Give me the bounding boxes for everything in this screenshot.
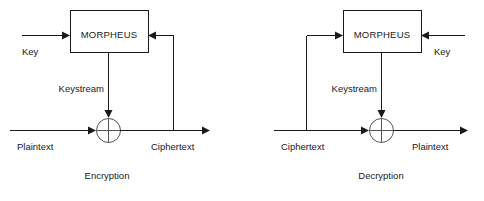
arrow-head-icon (148, 32, 156, 40)
encryption-feedback-wire (148, 32, 174, 131)
arrow-head-icon (335, 32, 343, 40)
decryption-feedback-wire (307, 32, 344, 131)
arrow-head-icon (105, 110, 113, 118)
encryption-keystream-label: Keystream (59, 83, 104, 94)
arrow-head-icon (378, 110, 386, 118)
encryption-cipher-block-label: MORPHEUS (81, 29, 138, 40)
decryption-diagram: MORPHEUS (274, 11, 468, 182)
decryption-ciphertext-wire (274, 127, 369, 135)
encryption-plaintext-label: Plaintext (17, 141, 54, 152)
decryption-caption: Decryption (358, 170, 403, 181)
arrow-head-icon (421, 32, 429, 40)
decryption-key-wire (421, 32, 465, 40)
arrow-head-icon (62, 32, 70, 40)
arrow-head-icon (460, 127, 468, 135)
encryption-ciphertext-label: Ciphertext (151, 141, 195, 152)
decryption-cipher-block-label: MORPHEUS (354, 29, 411, 40)
arrow-head-icon (88, 127, 96, 135)
decryption-xor-combiner (370, 119, 394, 143)
decryption-keystream-wire (378, 52, 386, 118)
encryption-plaintext-wire (10, 127, 96, 135)
encryption-caption: Encryption (85, 170, 130, 181)
encryption-key-wire (22, 32, 70, 40)
encryption-diagram: MORPHEUS (10, 11, 210, 182)
arrow-head-icon (361, 127, 369, 135)
decryption-keystream-label: Keystream (332, 83, 377, 94)
arrow-head-icon (202, 127, 210, 135)
decryption-plaintext-wire (393, 127, 468, 135)
encryption-keystream-wire (105, 52, 113, 118)
encryption-key-label: Key (22, 46, 39, 57)
diagram-canvas: MORPHEUS (0, 0, 484, 201)
encryption-ciphertext-wire (120, 127, 210, 135)
decryption-ciphertext-label: Ciphertext (281, 141, 325, 152)
encryption-xor-combiner (97, 119, 121, 143)
decryption-plaintext-label: Plaintext (412, 141, 449, 152)
stream-cipher-diagram: MORPHEUS (0, 0, 484, 201)
decryption-key-label: Key (434, 46, 451, 57)
